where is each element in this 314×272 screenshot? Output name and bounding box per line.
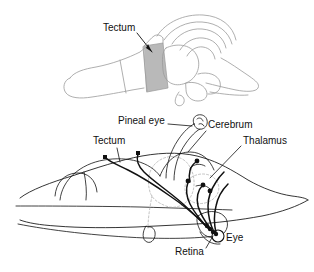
label-thalamus: Thalamus — [243, 135, 287, 146]
rostral-tube-top-outline — [70, 47, 146, 78]
rostral-tube-outline — [64, 78, 144, 98]
retina-leader-line — [206, 236, 213, 248]
tectum-lower-leader-line — [117, 148, 120, 162]
terminal-dot-thalamus-1 — [186, 179, 191, 184]
skull-dorsal-outline — [20, 153, 308, 200]
anatomical-diagram-svg: Tectum Pineal eye Cerebrum Thalamus Tect… — [0, 0, 314, 272]
tectum-dome — [160, 152, 214, 176]
tract-to-cerebrum-2 — [215, 184, 229, 233]
infundibulum-hook — [143, 226, 155, 242]
figure-root: Tectum Pineal eye Cerebrum Thalamus Tect… — [0, 0, 314, 272]
label-retina: Retina — [175, 246, 204, 257]
pineal-eye-inner-detail-1 — [197, 118, 203, 121]
skull-ventral-outline — [20, 200, 308, 228]
cerebrum-leader-line — [188, 131, 206, 152]
terminal-dot-tectum-far — [103, 155, 107, 159]
midbrain-lobe — [162, 45, 198, 85]
hypophysis-hook — [175, 92, 184, 106]
terminal-dot-thalamus-2 — [201, 183, 206, 188]
terminal-dot-pineal-branch — [195, 159, 200, 164]
label-cerebrum: Cerebrum — [208, 119, 252, 130]
label-leader-lines — [117, 124, 241, 248]
terminal-dot-cerebrum-1 — [208, 189, 213, 194]
ventricle-dashed-line — [148, 196, 152, 228]
label-eye: Eye — [226, 232, 244, 243]
cerebrum-arc-4 — [180, 38, 221, 53]
upper-brain-drawing — [64, 15, 259, 106]
pineal-eye-leader-line — [168, 124, 192, 126]
label-tectum-lower: Tectum — [93, 135, 125, 146]
retina-origin-dot-4 — [214, 232, 218, 236]
tract-to-cerebrum-1 — [208, 172, 224, 232]
forebrain-fissure — [84, 172, 86, 200]
pineal-eye-inner-detail-2 — [199, 124, 204, 126]
cerebrum-outer-arc — [157, 15, 236, 40]
terminal-dot-tectum-near — [136, 151, 140, 155]
label-tectum-upper: Tectum — [103, 22, 135, 33]
ventral-lobe-1 — [186, 82, 207, 101]
jaw-line-lower — [18, 224, 222, 238]
pineal-eye-capsule — [193, 115, 207, 130]
label-pineal-eye: Pineal eye — [118, 115, 165, 126]
rostral-tube-segment-1 — [120, 60, 126, 93]
